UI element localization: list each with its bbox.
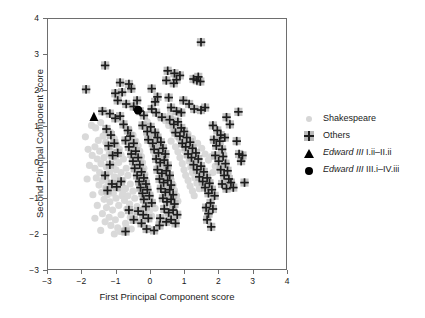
data-point-others [134,210,143,212]
data-point-others [160,208,169,210]
data-point-others [194,76,203,78]
legend-label-shakespeare: Shakespeare [323,114,376,123]
data-point-shakespeare [129,188,136,195]
data-point-others [159,147,168,149]
data-point-shakespeare [112,195,119,202]
data-point-others [197,109,206,111]
data-point-shakespeare [91,215,98,222]
x-tick-mark [184,270,185,274]
data-point-others [150,230,159,232]
data-point-others [238,155,247,157]
data-point-edward-triangle [89,112,98,121]
data-point-others [170,72,179,74]
data-point-others [156,162,165,164]
x-tick-mark [81,270,82,274]
data-point-others [134,157,143,159]
data-point-shakespeare [82,133,89,140]
legend-label-edward-2: Edward III III.i–IV.iii [323,165,399,174]
data-point-others [169,194,178,196]
x-tick-label: −1 [106,277,126,286]
data-point-others [218,183,227,185]
data-point-shakespeare [102,218,109,225]
data-point-others [143,189,152,191]
legend-scenes-edward-1: I.ii–II.ii [366,147,392,157]
data-point-others [163,70,172,72]
data-point-others [170,82,179,84]
y-tick-mark [43,270,47,271]
data-point-others [122,103,131,105]
data-point-others [113,100,122,102]
data-point-others [204,213,213,215]
data-point-shakespeare [118,211,125,218]
data-point-others [223,170,232,172]
data-point-others [165,175,174,177]
data-point-others [106,113,115,115]
x-tick-mark [218,270,219,274]
data-point-others [136,164,145,166]
data-point-others [125,209,134,211]
data-point-others [147,88,156,90]
legend-item-edward-1: Edward III I.ii–II.ii [302,144,422,161]
data-point-others [158,116,167,118]
data-point-others [121,231,130,233]
data-point-others [82,89,91,91]
data-point-others [222,116,231,118]
x-tick-mark [150,270,151,274]
data-point-shakespeare [122,220,129,227]
data-point-others [103,190,112,192]
data-point-others [139,214,148,216]
data-point-others [137,222,146,224]
data-point-others [144,217,153,219]
data-point-others [133,100,142,102]
data-point-shakespeare [115,202,122,209]
legend-item-edward-2: Edward III III.i–IV.iii [302,161,422,178]
x-tick-label: 0 [140,277,160,286]
legend-scenes-edward-2: III.i–IV.iii [366,164,399,174]
data-point-others [198,181,207,183]
data-point-others [151,132,160,134]
data-point-others [119,124,128,126]
data-point-others [193,169,202,171]
data-point-shakespeare [96,148,103,155]
data-point-shakespeare [112,216,119,223]
data-point-others [199,171,208,173]
data-point-others [121,140,130,142]
data-point-others [165,189,174,191]
data-point-others [135,181,144,183]
data-point-others [116,82,125,84]
data-point-others [113,152,122,154]
data-point-others [161,191,170,193]
data-point-others [112,186,121,188]
data-point-others [117,181,126,183]
data-point-others [102,128,111,130]
data-point-others [152,112,161,114]
data-point-shakespeare [168,138,175,145]
data-point-others [151,101,160,103]
data-point-others [162,80,171,82]
data-point-others [153,169,162,171]
data-point-shakespeare [99,210,106,217]
x-tick-mark [116,270,117,274]
data-point-others [226,124,235,126]
data-point-others [150,149,159,151]
scatter-canvas [48,19,286,269]
data-point-others [156,217,165,219]
data-point-others [145,195,154,197]
data-point-others [160,159,169,161]
legend-italic-edward-1: Edward III [323,147,364,157]
data-point-others [216,134,225,136]
data-point-others [138,125,147,127]
data-point-others [147,108,156,110]
data-point-others [229,187,238,189]
data-point-shakespeare [84,175,91,182]
data-point-others [214,160,223,162]
data-point-others [153,96,162,98]
data-point-others [208,189,217,191]
data-point-shakespeare [123,165,130,172]
data-point-others [164,97,173,99]
data-point-others [111,117,120,119]
legend-item-others: Others [302,127,422,144]
data-point-others [131,150,140,152]
data-point-others [140,115,149,117]
data-point-others [167,107,176,109]
